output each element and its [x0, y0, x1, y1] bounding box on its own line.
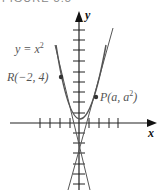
curve-label: y = x2 [14, 41, 44, 56]
tangent-line-r [55, 45, 90, 190]
x-axis-label: x [147, 126, 154, 140]
point-r-label: R(−2, 4) [6, 70, 48, 84]
point-r-marker [59, 75, 63, 79]
y-axis-arrow-icon [75, 11, 83, 22]
graph: y = x2 R(−2, 4) P(a, a2) x y [0, 0, 166, 190]
point-p-marker [94, 95, 98, 99]
y-axis-label: y [83, 8, 91, 22]
tangent-line-p [68, 28, 113, 190]
point-p-label: P(a, a2) [99, 89, 137, 104]
x-axis [10, 118, 157, 128]
